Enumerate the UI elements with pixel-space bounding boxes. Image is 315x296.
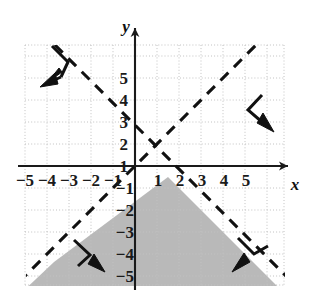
x-tick-4: 4 [220, 171, 229, 190]
x-tick-5: 5 [242, 171, 251, 190]
x-tick-1: 1 [154, 171, 163, 190]
y-tick--5: −5 [116, 267, 134, 286]
y-tick--1: −1 [116, 179, 134, 198]
y-tick-2: 2 [120, 135, 129, 154]
x-tick-3: 3 [198, 171, 207, 190]
x-tick-2: 2 [176, 171, 185, 190]
y-axis-label: y [120, 17, 130, 36]
x-axis-label: x [290, 175, 300, 194]
graph-svg: −5 −4 −3 −2 −1 1 2 3 4 5 5 4 3 2 1 −1 −2… [0, 0, 315, 296]
y-tick--4: −4 [116, 245, 135, 264]
x-tick--5: −5 [16, 171, 34, 190]
x-tick--4: −4 [38, 171, 57, 190]
y-tick-5: 5 [120, 69, 129, 88]
coordinate-plane-figure: −5 −4 −3 −2 −1 1 2 3 4 5 5 4 3 2 1 −1 −2… [0, 0, 315, 296]
y-tick-4: 4 [120, 91, 129, 110]
x-tick--2: −2 [82, 171, 100, 190]
y-tick--2: −2 [116, 201, 134, 220]
x-tick--3: −3 [60, 171, 78, 190]
y-tick--3: −3 [116, 223, 134, 242]
y-tick-3: 3 [120, 113, 129, 132]
y-tick-1: 1 [120, 157, 129, 176]
